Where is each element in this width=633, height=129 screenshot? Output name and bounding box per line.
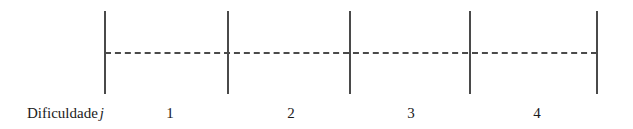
interval-label-1: 1 xyxy=(166,106,174,121)
axis-tick-1 xyxy=(227,11,229,94)
axis-tick-0 xyxy=(104,11,106,94)
interval-label-3: 3 xyxy=(407,106,415,121)
axis-tick-2 xyxy=(349,11,351,94)
interval-label-2: 2 xyxy=(287,106,295,121)
interval-label-4: 4 xyxy=(533,106,541,121)
difficulty-scale-figure: Dificuldadej 1 2 3 4 xyxy=(0,0,633,129)
axis-label: Dificuldadej xyxy=(27,106,104,121)
axis-dashed-line xyxy=(105,52,597,54)
axis-tick-4 xyxy=(596,11,598,94)
axis-tick-3 xyxy=(469,11,471,94)
axis-label-text: Dificuldade xyxy=(27,105,98,121)
axis-label-variable: j xyxy=(98,105,104,121)
